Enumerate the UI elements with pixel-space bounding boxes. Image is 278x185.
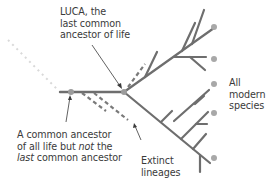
modern-species-label: All modern species [229,77,265,112]
modern-species-tips [211,24,217,161]
extinct-lineages-label: Extinct lineages [141,155,180,178]
luca-node [121,89,127,95]
common-ancestor-node [68,89,74,95]
upper-clade [124,10,214,92]
common-ancestor-label: A common ancestor of all life but not th… [17,129,122,164]
luca-label: LUCA, the last common ancestor of life [60,6,130,41]
phylogenetic-tree-diagram: LUCA, the last common ancestor of life A… [0,0,278,185]
faded-ancestral-trail [8,40,58,90]
